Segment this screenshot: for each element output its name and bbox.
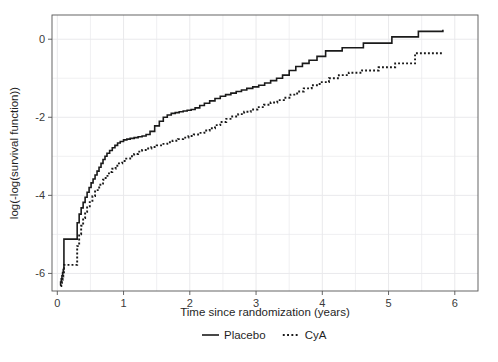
y-tick-label: 0 [39, 33, 45, 45]
chart-legend: PlaceboCyA [202, 329, 327, 341]
y-axis-title: log(-log(survival function)) [8, 87, 20, 219]
plot-frame [52, 15, 478, 291]
chart-figure: 01234560-2-4-6 Time since randomization … [0, 0, 498, 362]
x-tick-label: 6 [452, 297, 458, 309]
y-tick-label: -4 [35, 189, 45, 201]
y-tick-label: -2 [35, 111, 45, 123]
survival-plot: 01234560-2-4-6 Time since randomization … [0, 0, 498, 362]
x-tick-label: 0 [54, 297, 60, 309]
data-series-layer [60, 30, 443, 286]
tick-marks [48, 39, 455, 295]
x-tick-label: 1 [120, 297, 126, 309]
gridlines [52, 15, 478, 291]
series-line-cya [61, 52, 443, 285]
legend-label-cya: CyA [305, 329, 327, 341]
y-tick-label: -6 [35, 267, 45, 279]
x-tick-label: 5 [385, 297, 391, 309]
series-line-placebo [60, 30, 443, 285]
x-axis-title: Time since randomization (years) [180, 306, 350, 318]
legend-label-placebo: Placebo [224, 329, 266, 341]
